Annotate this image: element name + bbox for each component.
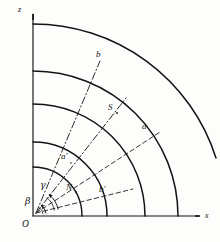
point-marker-N	[75, 191, 77, 193]
point-label-a: a	[142, 122, 147, 131]
point-label-b-prime: b'	[99, 185, 106, 194]
point-label-S: S	[108, 103, 113, 112]
angle-label-beta: β	[25, 196, 31, 206]
arc-group	[33, 24, 216, 216]
point-label-b: b	[96, 50, 101, 59]
angle-label-gamma: γ	[40, 180, 46, 190]
beta-angle-arc	[41, 205, 46, 214]
point-marker-S	[116, 112, 118, 114]
outer-arc	[33, 71, 178, 216]
geometric-figure: z x O b S a a' N b' γ β	[0, 0, 220, 242]
origin-label: O	[22, 220, 29, 230]
top-arc	[33, 24, 216, 158]
figure-canvas	[0, 0, 220, 242]
x-axis-label: x	[205, 212, 209, 220]
point-marker-a-prime	[70, 162, 72, 164]
point-marker-group	[70, 112, 118, 193]
second-arc	[33, 104, 145, 216]
z-axis-label: z	[18, 6, 21, 14]
point-label-a-prime: a'	[61, 152, 68, 161]
point-label-N: N	[66, 183, 72, 192]
